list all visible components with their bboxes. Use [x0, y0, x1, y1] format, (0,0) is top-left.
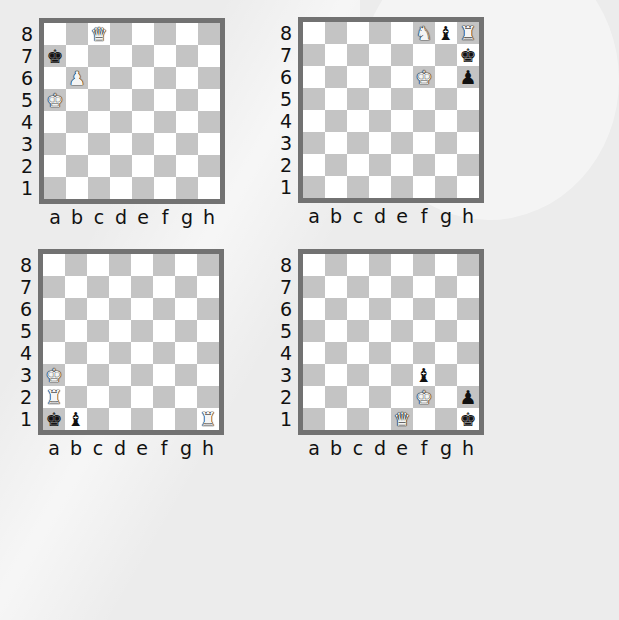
square-e3[interactable] — [132, 133, 154, 155]
square-e4[interactable] — [391, 110, 413, 132]
square-e8[interactable] — [391, 254, 413, 276]
square-b3[interactable] — [325, 364, 347, 386]
square-c3[interactable] — [88, 133, 110, 155]
black-pawn-icon[interactable]: ♟ — [459, 386, 476, 408]
square-d4[interactable] — [369, 342, 391, 364]
square-e8[interactable] — [132, 23, 154, 45]
square-b7[interactable] — [325, 276, 347, 298]
square-d5[interactable] — [109, 320, 131, 342]
square-f6[interactable] — [154, 67, 176, 89]
square-h4[interactable] — [457, 342, 479, 364]
square-c5[interactable] — [347, 320, 369, 342]
black-king-icon[interactable]: ♚ — [45, 408, 62, 430]
white-pawn-icon[interactable]: ♟ — [68, 67, 85, 89]
square-h5[interactable] — [198, 89, 220, 111]
square-c1[interactable] — [88, 177, 110, 199]
square-f5[interactable] — [154, 89, 176, 111]
square-d6[interactable] — [369, 66, 391, 88]
square-g6[interactable] — [176, 67, 198, 89]
square-f7[interactable] — [413, 276, 435, 298]
square-d8[interactable] — [369, 254, 391, 276]
square-c1[interactable] — [347, 408, 369, 430]
square-a3[interactable] — [303, 132, 325, 154]
square-b2[interactable] — [65, 386, 87, 408]
square-f4[interactable] — [153, 342, 175, 364]
square-d6[interactable] — [369, 298, 391, 320]
square-d3[interactable] — [369, 132, 391, 154]
square-b7[interactable] — [325, 44, 347, 66]
square-c5[interactable] — [88, 89, 110, 111]
square-f1[interactable] — [153, 408, 175, 430]
square-g4[interactable] — [176, 111, 198, 133]
square-e6[interactable] — [391, 66, 413, 88]
square-d1[interactable] — [369, 408, 391, 430]
square-f8[interactable] — [154, 23, 176, 45]
square-c3[interactable] — [87, 364, 109, 386]
square-b4[interactable] — [66, 111, 88, 133]
square-f3[interactable] — [153, 364, 175, 386]
square-c3[interactable] — [347, 132, 369, 154]
square-d3[interactable] — [369, 364, 391, 386]
square-h1[interactable] — [198, 177, 220, 199]
square-h8[interactable]: ♜ — [457, 22, 479, 44]
square-g5[interactable] — [435, 88, 457, 110]
square-b6[interactable] — [65, 298, 87, 320]
square-a6[interactable] — [43, 298, 65, 320]
square-h8[interactable] — [457, 254, 479, 276]
square-a3[interactable]: ♚ — [43, 364, 65, 386]
square-g4[interactable] — [175, 342, 197, 364]
square-d8[interactable] — [369, 22, 391, 44]
square-d7[interactable] — [109, 276, 131, 298]
square-f5[interactable] — [153, 320, 175, 342]
square-c2[interactable] — [347, 154, 369, 176]
square-f4[interactable] — [413, 110, 435, 132]
square-a1[interactable] — [303, 408, 325, 430]
square-c7[interactable] — [87, 276, 109, 298]
square-g7[interactable] — [175, 276, 197, 298]
square-e7[interactable] — [391, 276, 413, 298]
square-c4[interactable] — [88, 111, 110, 133]
square-b8[interactable] — [325, 22, 347, 44]
square-b6[interactable] — [325, 298, 347, 320]
square-c2[interactable] — [347, 386, 369, 408]
square-b5[interactable] — [325, 320, 347, 342]
square-a6[interactable] — [303, 66, 325, 88]
white-rook-icon[interactable]: ♜ — [199, 408, 216, 430]
black-king-icon[interactable]: ♚ — [459, 408, 476, 430]
square-b2[interactable] — [325, 386, 347, 408]
square-f1[interactable] — [413, 176, 435, 198]
square-f4[interactable] — [413, 342, 435, 364]
square-h3[interactable] — [198, 133, 220, 155]
square-f6[interactable]: ♚ — [413, 66, 435, 88]
square-g4[interactable] — [435, 110, 457, 132]
square-g3[interactable] — [175, 364, 197, 386]
square-f1[interactable] — [154, 177, 176, 199]
white-queen-icon[interactable]: ♛ — [90, 23, 107, 45]
square-h2[interactable]: ♟ — [457, 386, 479, 408]
square-c8[interactable]: ♛ — [88, 23, 110, 45]
square-a6[interactable] — [303, 298, 325, 320]
white-king-icon[interactable]: ♚ — [415, 66, 432, 88]
white-king-icon[interactable]: ♚ — [45, 364, 62, 386]
square-c5[interactable] — [87, 320, 109, 342]
square-h7[interactable] — [457, 276, 479, 298]
square-h1[interactable] — [457, 176, 479, 198]
square-g2[interactable] — [435, 154, 457, 176]
square-f4[interactable] — [154, 111, 176, 133]
square-g8[interactable] — [176, 23, 198, 45]
square-a2[interactable]: ♜ — [43, 386, 65, 408]
square-h3[interactable] — [457, 132, 479, 154]
square-e4[interactable] — [391, 342, 413, 364]
square-b7[interactable] — [66, 45, 88, 67]
black-pawn-icon[interactable]: ♟ — [459, 66, 476, 88]
square-g1[interactable] — [435, 176, 457, 198]
square-g1[interactable] — [175, 408, 197, 430]
white-king-icon[interactable]: ♚ — [415, 386, 432, 408]
square-h1[interactable]: ♚ — [457, 408, 479, 430]
square-d2[interactable] — [110, 155, 132, 177]
square-d5[interactable] — [110, 89, 132, 111]
white-king-icon[interactable]: ♚ — [46, 89, 63, 111]
square-f1[interactable] — [413, 408, 435, 430]
square-b6[interactable]: ♟ — [66, 67, 88, 89]
square-e7[interactable] — [132, 45, 154, 67]
